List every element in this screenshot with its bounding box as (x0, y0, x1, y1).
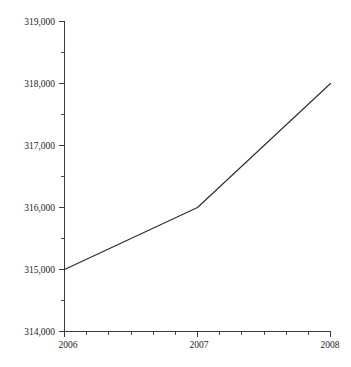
y-axis-tick-labels: 319,000 318,000 317,000 316,000 315,000 … (24, 17, 55, 337)
x-axis-label-2007: 2007 (190, 340, 209, 350)
x-axis-tick-labels: 2006 2007 2008 (59, 340, 340, 350)
x-axis-label-2008: 2008 (321, 340, 340, 350)
line-chart: 319,000 318,000 317,000 316,000 315,000 … (0, 0, 351, 367)
y-axis-label-318000: 318,000 (24, 79, 55, 89)
chart-canvas: 319,000 318,000 317,000 316,000 315,000 … (0, 0, 351, 367)
x-axis-major-ticks (65, 332, 331, 338)
y-axis-label-314000: 314,000 (24, 327, 55, 337)
y-axis-label-316000: 316,000 (24, 203, 55, 213)
x-axis-label-2006: 2006 (59, 340, 78, 350)
y-axis-label-317000: 317,000 (24, 141, 55, 151)
y-axis-minor-ticks (61, 53, 65, 301)
data-series-line (65, 84, 331, 270)
y-axis-label-319000: 319,000 (24, 17, 55, 27)
y-axis-label-315000: 315,000 (24, 265, 55, 275)
